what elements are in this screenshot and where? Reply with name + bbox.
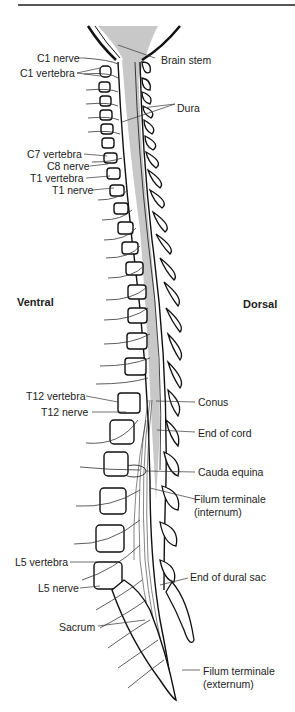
label-end-of-cord: End of cord <box>198 427 252 439</box>
label-filum-externum-1: Filum terminale <box>203 665 275 677</box>
label-c1-nerve: C1 nerve <box>37 52 80 64</box>
label-c7-vertebra: C7 vertebra <box>27 148 82 160</box>
label-filum-externum-2: (externum) <box>203 678 254 690</box>
label-ventral: Ventral <box>17 296 54 308</box>
label-end-of-dural-sac: End of dural sac <box>190 571 266 583</box>
label-l5-vertebra: L5 vertebra <box>15 556 68 568</box>
label-t1-vertebra: T1 vertebra <box>30 172 84 184</box>
label-filum-internum-2: (internum) <box>194 506 242 518</box>
label-conus: Conus <box>198 396 228 408</box>
label-dorsal: Dorsal <box>243 298 277 310</box>
label-t12-vertebra: T12 vertebra <box>26 390 86 402</box>
label-t1-nerve: T1 nerve <box>52 184 93 196</box>
spine-illustration <box>0 0 295 712</box>
label-l5-nerve: L5 nerve <box>38 582 79 594</box>
label-cauda-equina: Cauda equina <box>198 466 263 478</box>
label-c8-nerve: C8 nerve <box>47 160 90 172</box>
label-dura: Dura <box>177 102 200 114</box>
label-c1-vertebra: C1 vertebra <box>20 67 75 79</box>
label-t12-nerve: T12 nerve <box>41 406 88 418</box>
label-brain-stem: Brain stem <box>161 54 211 66</box>
label-filum-internum-1: Filum terminale <box>194 493 266 505</box>
label-sacrum: Sacrum <box>59 621 95 633</box>
